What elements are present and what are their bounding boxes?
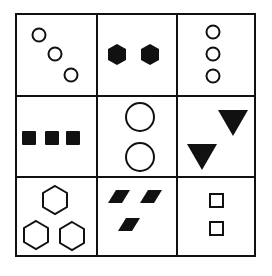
triangle-down-icon <box>218 110 248 136</box>
circle-icon <box>33 29 46 42</box>
square-icon <box>45 131 59 145</box>
circle-icon <box>207 48 220 61</box>
cell-r2c3 <box>187 110 248 170</box>
cell-r2c2 <box>126 103 154 171</box>
circle-icon <box>207 26 220 39</box>
cell-r3c2 <box>108 190 162 231</box>
parallelogram-icon <box>118 218 140 231</box>
square-icon <box>66 131 80 145</box>
square-icon <box>22 131 36 145</box>
cell-r3c1 <box>24 186 84 250</box>
puzzle-grid <box>0 0 272 276</box>
cell-r1c3 <box>207 26 220 83</box>
circle-icon <box>207 70 220 83</box>
hexagon-icon <box>108 44 126 65</box>
cell-r1c1 <box>33 29 78 82</box>
hexagon-icon <box>24 221 48 249</box>
circle-icon <box>126 143 154 171</box>
cell-r1c2 <box>108 44 159 65</box>
square-icon <box>210 194 223 207</box>
hexagon-icon <box>60 222 84 250</box>
hexagon-icon <box>43 186 67 214</box>
parallelogram-icon <box>140 190 162 203</box>
cell-r2c1 <box>22 131 80 145</box>
parallelogram-icon <box>108 190 130 203</box>
triangle-down-icon <box>187 144 217 170</box>
circle-icon <box>49 48 62 61</box>
hexagon-icon <box>141 44 159 65</box>
circle-icon <box>65 69 78 82</box>
circle-icon <box>126 103 154 131</box>
square-icon <box>210 222 223 235</box>
cell-r3c3 <box>210 194 223 235</box>
